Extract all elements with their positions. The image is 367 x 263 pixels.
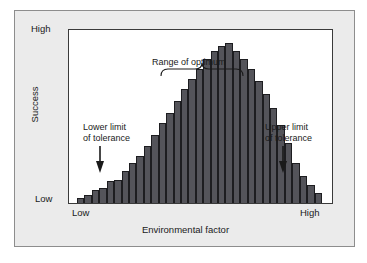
histogram-bar [159,123,166,203]
histogram-bar [300,176,307,203]
histogram-bar [114,180,121,203]
upper-limit-label: Upper limit of tolerance [265,122,312,143]
histogram-bar [233,51,240,203]
histogram-bar [240,59,247,203]
histogram-bar [285,143,292,203]
histogram-bar [99,188,106,203]
upper-limit-label-line1: Upper limit [265,122,312,133]
x-axis-tick-high: High [300,207,320,218]
histogram-bar [292,163,299,203]
range-of-optimum-label: Range of optimum [152,57,226,68]
histogram-bar [255,81,262,203]
plot-frame: Range of optimum Lower limit of toleranc… [68,29,333,204]
histogram-bar [307,185,314,203]
histogram-bar [203,59,210,203]
lower-limit-label: Lower limit of tolerance [83,122,130,143]
histogram-bar [225,43,232,203]
histogram-bar [315,193,322,203]
lower-limit-label-line1: Lower limit [83,122,130,133]
histogram-bar [136,156,143,203]
y-axis-tick-high: High [31,23,51,34]
histogram-bar [174,101,181,203]
histogram-bar [211,51,218,203]
histogram-bar [107,181,114,203]
histogram-bar [92,190,99,203]
histogram-bar [84,195,91,203]
histogram-bar [218,46,225,203]
histogram-bar [144,146,151,203]
plot-area: Range of optimum Lower limit of toleranc… [69,30,332,203]
histogram-bar [166,113,173,203]
y-axis-title: Success [29,70,40,140]
histogram-bar [151,135,158,203]
y-axis-tick-low: Low [35,193,52,204]
histogram-bar [248,69,255,203]
upper-limit-label-line2: of tolerance [265,133,312,144]
histogram-bar [188,79,195,203]
histogram-bars [69,30,332,203]
histogram-bar [77,198,84,203]
histogram-bar [263,94,270,203]
histogram-bar [196,69,203,203]
histogram-bar [122,171,129,203]
histogram-bar [181,89,188,203]
figure-panel: High Low Success Low High Environmental … [14,10,355,247]
lower-limit-label-line2: of tolerance [83,133,130,144]
histogram-bar [129,163,136,203]
x-axis-tick-low: Low [72,207,89,218]
x-axis-title: Environmental factor [15,224,356,235]
